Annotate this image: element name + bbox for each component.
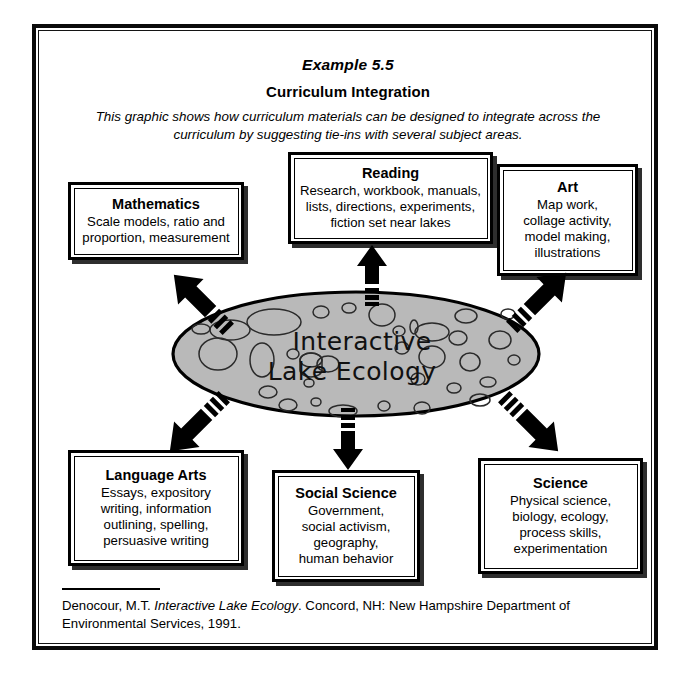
subject-body: Map work, collage activity, model making… — [523, 197, 611, 261]
arrow-to-social-science — [328, 408, 368, 472]
subject-title: Science — [533, 475, 588, 492]
subject-title: Mathematics — [112, 196, 200, 213]
subject-body: Essays, expository writing, information … — [101, 485, 212, 549]
arrow-down-icon — [328, 408, 368, 472]
subject-title: Language Arts — [106, 467, 207, 484]
subject-box-inner: Science Physical science, biology, ecolo… — [484, 464, 638, 569]
subject-body: Scale models, ratio and proportion, meas… — [82, 214, 229, 246]
subject-title: Social Science — [295, 485, 397, 502]
subject-box-reading: Reading Research, workbook, manuals, lis… — [288, 152, 493, 244]
citation-text: Denocour, M.T. Interactive Lake Ecology.… — [62, 597, 632, 632]
arrow-up-right-icon — [492, 256, 588, 342]
subject-box-inner: Mathematics Scale models, ratio and prop… — [74, 188, 239, 255]
citation-author: Denocour, M.T. — [62, 598, 151, 613]
citation-block: Denocour, M.T. Interactive Lake Ecology.… — [62, 588, 632, 632]
arrow-down-right-icon — [484, 382, 580, 468]
arrow-to-art — [492, 256, 588, 342]
subject-body: Research, workbook, manuals, lists, dire… — [300, 183, 481, 231]
arrow-up-icon — [352, 244, 392, 306]
arrow-to-language-arts — [148, 382, 244, 468]
arrow-down-left-icon — [148, 382, 244, 468]
arrow-to-reading — [352, 244, 392, 306]
subject-box-inner: Social Science Government, social activi… — [278, 476, 415, 577]
subject-title: Reading — [362, 165, 419, 182]
subject-box-science: Science Physical science, biology, ecolo… — [478, 458, 643, 574]
citation-work-title: Interactive Lake Ecology — [154, 598, 298, 613]
citation-rule — [62, 588, 160, 590]
arrow-to-science — [484, 382, 580, 468]
description-text: This graphic shows how curriculum materi… — [60, 108, 636, 144]
subject-body: Physical science, biology, ecology, proc… — [510, 493, 611, 557]
arrow-up-left-icon — [152, 258, 248, 344]
example-label: Example 5.5 — [60, 56, 636, 74]
subject-box-social-science: Social Science Government, social activi… — [272, 470, 420, 582]
subject-box-inner: Language Arts Essays, expository writing… — [74, 456, 239, 561]
page-title: Curriculum Integration — [60, 83, 636, 100]
subject-body: Government, social activism, geography, … — [299, 503, 394, 567]
arrow-to-mathematics — [152, 258, 248, 344]
subject-title: Art — [557, 179, 578, 196]
subject-box-mathematics: Mathematics Scale models, ratio and prop… — [68, 182, 244, 260]
header: Example 5.5 Curriculum Integration This … — [60, 56, 636, 144]
subject-box-inner: Reading Research, workbook, manuals, lis… — [294, 158, 488, 239]
